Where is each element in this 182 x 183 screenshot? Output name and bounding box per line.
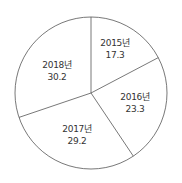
slice-value: 29.2 xyxy=(52,135,102,147)
slice-value: 30.2 xyxy=(32,71,82,83)
slice-year: 2016년 xyxy=(110,91,160,103)
slice-label-2016: 2016년 23.3 xyxy=(110,91,160,115)
slice-year: 2017년 xyxy=(52,123,102,135)
slice-value: 23.3 xyxy=(110,103,160,115)
slice-label-2017: 2017년 29.2 xyxy=(52,123,102,147)
slice-label-2015: 2015년 17.3 xyxy=(90,37,140,61)
slice-year: 2018년 xyxy=(32,59,82,71)
slice-label-2018: 2018년 30.2 xyxy=(32,59,82,83)
slice-value: 17.3 xyxy=(90,49,140,61)
slice-year: 2015년 xyxy=(90,37,140,49)
